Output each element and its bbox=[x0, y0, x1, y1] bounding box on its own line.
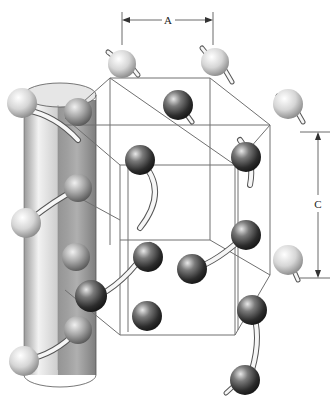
cylinder-bottom-edge bbox=[24, 375, 96, 387]
atom-mid bbox=[64, 98, 92, 126]
dimension-c: C bbox=[300, 132, 330, 278]
atom-dark bbox=[237, 295, 267, 325]
dim-a-arrow-left bbox=[122, 17, 130, 23]
atom-mid bbox=[62, 243, 90, 271]
dim-c-arrow-top bbox=[315, 132, 321, 140]
atom-light bbox=[9, 346, 39, 376]
atom-dark bbox=[177, 254, 207, 284]
atom-light bbox=[108, 50, 136, 78]
atom-light bbox=[201, 48, 229, 76]
atom-dark bbox=[133, 242, 163, 272]
atom-light bbox=[273, 89, 303, 119]
atom-dark bbox=[125, 145, 155, 175]
atom-dark bbox=[231, 220, 261, 250]
atom-dark bbox=[132, 301, 162, 331]
label-a: A bbox=[164, 14, 172, 26]
atom-light bbox=[273, 245, 303, 275]
atom-mid bbox=[64, 316, 92, 344]
label-c: C bbox=[314, 198, 321, 210]
atom-dark bbox=[163, 90, 193, 120]
atom-dark bbox=[231, 142, 261, 172]
crystal-diagram: A C bbox=[0, 0, 333, 413]
atom-light bbox=[11, 208, 41, 238]
atom-light bbox=[7, 88, 37, 118]
atom-dark bbox=[230, 365, 260, 395]
dim-c-arrow-bottom bbox=[315, 270, 321, 278]
dimension-a: A bbox=[122, 12, 213, 45]
atom-mid bbox=[64, 174, 92, 202]
dim-a-arrow-right bbox=[205, 17, 213, 23]
atom-dark bbox=[75, 280, 107, 312]
